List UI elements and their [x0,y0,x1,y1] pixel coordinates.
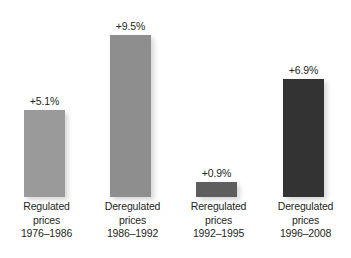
bar-group-deregulated-1986-1992: +9.5% [110,20,151,197]
category-label-4-line2: prices [248,214,351,228]
bar-rect-3[interactable] [196,182,237,197]
category-label-4-line1: Deregulated [248,200,351,214]
bar-rect-2[interactable] [110,35,151,197]
category-label-4-line3: 1996–2008 [248,227,351,241]
bar-value-label-4: +6.9% [289,64,319,76]
bar-group-regulated-1976-1986: +5.1% [24,95,65,197]
bar-rect-1[interactable] [24,110,65,197]
category-labels-row: Regulated prices 1976–1986 Deregulated p… [0,200,351,258]
bar-group-deregulated-1996-2008: +6.9% [283,64,324,197]
category-label-deregulated-1996-2008: Deregulated prices 1996–2008 [248,200,351,241]
bar-value-label-3: +0.9% [202,167,232,179]
bar-value-label-1: +5.1% [30,95,60,107]
plot-area: +5.1% +9.5% +0.9% +6.9% [0,0,351,197]
bar-rect-4[interactable] [283,79,324,197]
bar-chart: +5.1% +9.5% +0.9% +6.9% Regulated prices… [0,0,351,258]
bar-group-reregulated-1992-1995: +0.9% [196,167,237,197]
bar-value-label-2: +9.5% [116,20,146,32]
